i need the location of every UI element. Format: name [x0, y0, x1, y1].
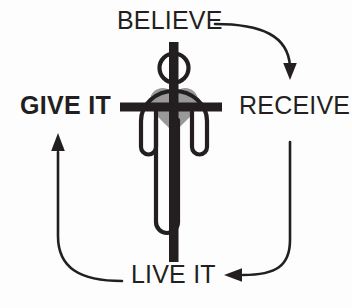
- label-give-it: GIVE IT: [20, 93, 111, 118]
- arrow-believe-to-receive-line: [215, 24, 290, 66]
- arrow-live-it-to-give-it-head: [51, 133, 65, 151]
- figure-right-arm: [192, 112, 207, 155]
- label-receive: RECEIVE: [239, 93, 350, 118]
- arrow-receive-to-live-it-head: [224, 268, 242, 282]
- curved-arrow-down-icon: [215, 24, 297, 80]
- cross-horizontal-bar: [120, 103, 222, 112]
- arrow-believe-to-receive-head: [283, 63, 297, 80]
- curved-arrow-left-icon: [224, 142, 290, 282]
- arrow-receive-to-live-it-line: [243, 142, 290, 275]
- cycle-diagram: BELIEVE RECEIVE GIVE IT LIVE IT: [0, 0, 352, 308]
- person-with-cross-and-heart-icon: [120, 42, 222, 262]
- label-believe: BELIEVE: [117, 8, 223, 33]
- cross-vertical-post: [169, 42, 179, 262]
- label-live-it: LIVE IT: [131, 262, 216, 287]
- figure-left-arm: [141, 112, 156, 155]
- curved-arrow-up-icon: [51, 133, 122, 281]
- arrow-live-it-to-give-it-line: [58, 152, 122, 281]
